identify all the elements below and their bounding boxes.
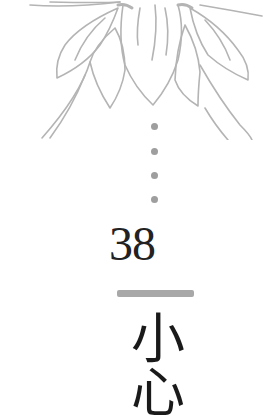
dot-1 bbox=[151, 123, 158, 130]
dot-3 bbox=[151, 172, 158, 179]
chapter-title: 小心 bbox=[122, 310, 182, 418]
lotus-illustration bbox=[0, 0, 264, 140]
dot-4 bbox=[151, 196, 158, 203]
chapter-number: 38 bbox=[0, 218, 264, 270]
divider-bar bbox=[117, 290, 194, 297]
dot-2 bbox=[151, 148, 158, 155]
